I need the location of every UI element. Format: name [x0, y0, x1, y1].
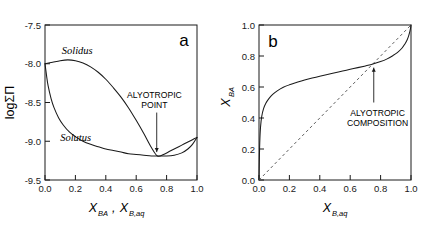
panel-b-xtick-1: 0.2 — [283, 183, 296, 194]
panel-a: -7.5 -8.0 -8.5 -9.0 -9.5 0.0 0.2 0.4 0.6 — [0, 0, 214, 229]
panel-b-x-tick-labels: 0.0 0.2 0.4 0.6 0.8 1.0 — [252, 183, 417, 194]
panel-b-x-ticks — [259, 175, 411, 180]
panel-b-ytick-4: 0.8 — [242, 51, 255, 62]
panel-a-plot: -7.5 -8.0 -8.5 -9.0 -9.5 0.0 0.2 0.4 0.6 — [0, 0, 214, 229]
panel-a-y-ticks — [45, 25, 50, 180]
panel-b-x-axis-title-sub: B,aq — [332, 209, 348, 218]
alyotropic-point-label-line1: ALYOTROPIC — [127, 90, 182, 100]
panel-b-y-axis-title-sub: BA — [227, 87, 236, 97]
panel-a-xtick-1: 0.2 — [69, 183, 82, 194]
panel-b-ytick-2: 0.4 — [242, 113, 255, 124]
figure-container: -7.5 -8.0 -8.5 -9.0 -9.5 0.0 0.2 0.4 0.6 — [0, 0, 428, 229]
panel-b-xtick-2: 0.4 — [313, 183, 326, 194]
panel-a-ytick-3: -9.0 — [25, 136, 41, 147]
panel-a-xtick-3: 0.6 — [130, 183, 143, 194]
panel-a-ytick-0: -7.5 — [25, 20, 41, 31]
panel-b-xtick-0: 0.0 — [252, 183, 265, 194]
panel-b-x-axis-title: X B,aq — [322, 201, 348, 218]
alyotropic-point-annotation: ALYOTROPIC POINT — [127, 90, 182, 152]
panel-a-ytick-1: -8.0 — [25, 58, 41, 69]
alyotropic-composition-label-line1: ALYOTROPIC — [350, 108, 405, 118]
alyotropic-point-label-line2: POINT — [141, 100, 168, 110]
panel-a-y-tick-labels: -7.5 -8.0 -8.5 -9.0 -9.5 — [25, 20, 41, 186]
solidus-label: Solidus — [62, 45, 93, 56]
panel-a-y-axis-title: logΣΠ — [3, 86, 17, 119]
alyotropic-composition-annotation: ALYOTROPIC COMPOSITION — [347, 68, 408, 128]
panel-b-plot: 1.0 0.8 0.6 0.4 0.2 0.0 0.0 0.2 0.4 0. — [214, 0, 428, 229]
alyotropic-composition-label-line2: COMPOSITION — [347, 118, 408, 128]
panel-b-y-axis-title-base: X — [219, 98, 233, 108]
panel-a-xtick-0: 0.0 — [38, 183, 51, 194]
panel-a-x-axis-title-comma: , — [112, 201, 115, 215]
panel-a-x-axis-title-base-1: X — [88, 201, 98, 215]
panel-b-xtick-4: 0.8 — [374, 183, 387, 194]
one-to-one-diagonal-line — [259, 25, 411, 180]
panel-b-xtick-5: 1.0 — [404, 183, 417, 194]
panel-a-x-ticks — [45, 175, 197, 180]
panel-b-ytick-1: 0.2 — [242, 144, 255, 155]
panel-a-xtick-5: 1.0 — [190, 183, 203, 194]
panel-b-ytick-5: 1.0 — [242, 20, 255, 31]
panel-b-x-axis-title-base: X — [322, 201, 332, 215]
panel-a-x-axis-title: X BA , X B,aq — [88, 201, 145, 218]
panel-a-x-axis-title-sub-1: BA — [98, 209, 108, 218]
panel-b-xtick-3: 0.6 — [344, 183, 357, 194]
solutus-label: Solutus — [60, 132, 91, 143]
panel-b-letter: b — [268, 32, 277, 51]
panel-b-ytick-3: 0.6 — [242, 82, 255, 93]
panel-b: 1.0 0.8 0.6 0.4 0.2 0.0 0.0 0.2 0.4 0. — [214, 0, 428, 229]
panel-a-x-axis-title-sub-2: B,aq — [129, 209, 145, 218]
panel-a-ytick-2: -8.5 — [25, 97, 41, 108]
panel-a-xtick-2: 0.4 — [99, 183, 112, 194]
panel-a-x-axis-title-base-2: X — [119, 201, 129, 215]
panel-a-xtick-4: 0.8 — [160, 183, 173, 194]
panel-b-y-tick-labels: 1.0 0.8 0.6 0.4 0.2 0.0 — [242, 20, 255, 186]
alyotropic-composition-arrow-head — [372, 68, 376, 72]
alyotropic-point-arrow-head — [155, 148, 159, 152]
panel-a-x-tick-labels: 0.0 0.2 0.4 0.6 0.8 1.0 — [38, 183, 203, 194]
panel-b-y-axis-title: X BA — [219, 87, 236, 108]
panel-a-letter: a — [179, 31, 189, 50]
